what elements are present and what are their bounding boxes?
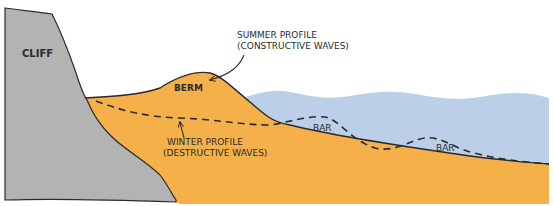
summer-profile-label-line1: SUMMER PROFILE bbox=[237, 30, 317, 40]
berm-label: BERM bbox=[174, 83, 203, 93]
cliff-label: CLIFF bbox=[22, 48, 53, 59]
winter-profile-label-line2: (DESTRUCTIVE WAVES) bbox=[163, 148, 267, 158]
summer-profile-label-line2: (CONSTRUCTIVE WAVES) bbox=[237, 41, 349, 51]
bar-label-1: BAR bbox=[313, 123, 332, 133]
winter-profile-label-line1: WINTER PROFILE bbox=[167, 137, 243, 147]
bar-label-2: BAR bbox=[436, 143, 455, 153]
beach-profile-diagram: CLIFF BERM SUMMER PROFILE (CONSTRUCTIVE … bbox=[0, 0, 554, 206]
